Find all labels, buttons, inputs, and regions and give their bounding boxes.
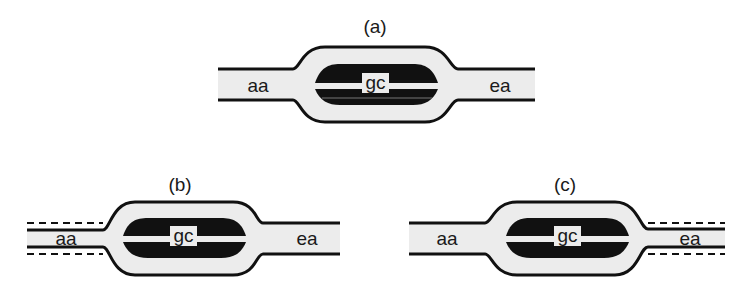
aa-label-b: aa — [55, 228, 77, 249]
panel-b-label: (b) — [168, 174, 191, 195]
gc-label-a: gc — [365, 72, 385, 93]
aa-label-a: aa — [247, 75, 269, 96]
ea-label-b: ea — [296, 228, 318, 249]
gc-label-b: gc — [173, 225, 193, 246]
aa-label-c: aa — [436, 228, 458, 249]
panel-c: (c) gc aa ea — [409, 174, 725, 275]
panel-c-label: (c) — [554, 174, 576, 195]
glomerulus-diagram: (a) gc aa ea (b) gc aa ea (c) — [0, 0, 749, 293]
panel-a: (a) gc aa ea — [218, 16, 535, 122]
panel-a-label: (a) — [363, 16, 386, 37]
ea-label-c: ea — [679, 228, 701, 249]
gc-label-c: gc — [557, 225, 577, 246]
ea-label-a: ea — [489, 75, 511, 96]
panel-b: (b) gc aa ea — [27, 174, 340, 275]
